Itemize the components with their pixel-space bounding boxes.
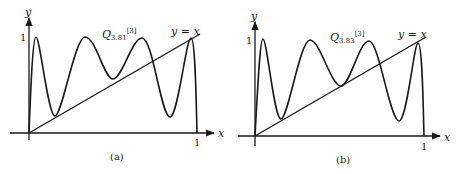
line-label-b: y = x — [397, 28, 427, 41]
y-axis-label-a: y — [24, 6, 32, 19]
caption-a: (a) — [110, 151, 124, 162]
identity-line-a — [29, 34, 200, 133]
curve-label-b: Q3.83[3] — [330, 30, 365, 45]
y-tick-label-b: 1 — [246, 35, 252, 46]
x-axis-label-a: x — [218, 127, 225, 140]
curve-label-a: Q3.81[3] — [102, 27, 137, 42]
x-axis-label-b: x — [444, 131, 451, 144]
caption-b: (b) — [336, 154, 350, 165]
x-tick-label-a: 1 — [194, 137, 200, 148]
x-tick-label-b: 1 — [421, 141, 427, 152]
figure-canvas: y x 1 1 Q3.81[3] y = x (a) y x 1 1 Q3.83… — [0, 0, 460, 174]
y-tick-label-a: 1 — [20, 32, 26, 43]
panel-a: y x 1 1 Q3.81[3] y = x (a) — [10, 6, 225, 162]
panel-b: y x 1 1 Q3.83[3] y = x (b) — [238, 10, 451, 165]
line-label-a: y = x — [170, 25, 200, 38]
y-axis-label-b: y — [250, 10, 258, 23]
